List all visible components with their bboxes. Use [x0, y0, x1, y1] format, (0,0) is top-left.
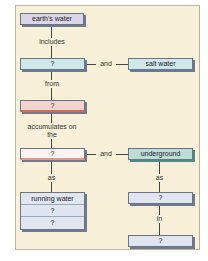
node-running-water: running water: [21, 193, 84, 205]
connector: [116, 64, 128, 65]
connector: [116, 154, 128, 155]
link-includes: includes: [30, 38, 74, 46]
connector: [87, 154, 96, 155]
link-and-1: and: [96, 60, 116, 68]
node-precipitation: ?: [20, 100, 85, 112]
link-in: in: [153, 215, 166, 223]
connector: [87, 64, 96, 65]
node-underground: underground: [128, 148, 193, 160]
node-surface: ?: [20, 148, 85, 160]
link-from: from: [36, 80, 68, 88]
link-accumulates-on-the: accumulates on the: [26, 123, 78, 139]
node-surface-forms-stack: running water ? ?: [20, 192, 85, 230]
link-as-left: as: [44, 174, 59, 182]
link-as-right: as: [152, 174, 167, 182]
node-surface-form-2: ?: [21, 205, 84, 217]
node-groundwater: ?: [128, 192, 193, 204]
node-aquifers: ?: [128, 235, 193, 247]
node-surface-form-3: ?: [21, 217, 84, 229]
node-earths-water: earth's water: [20, 13, 84, 25]
node-salt-water: salt water: [128, 58, 193, 70]
link-and-2: and: [96, 150, 116, 158]
node-fresh-water: ?: [20, 58, 85, 70]
